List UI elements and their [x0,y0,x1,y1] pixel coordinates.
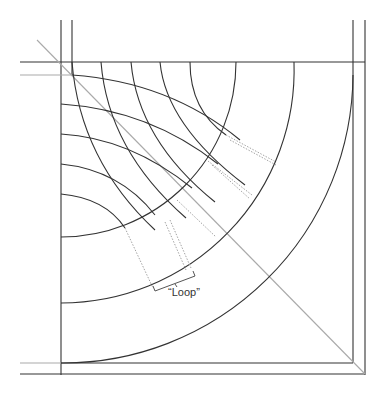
h-arc-5 [61,194,125,228]
dotted-3 [208,161,252,195]
loop-label: “Loop” [168,286,200,298]
dotted-8 [125,228,153,288]
dotted-7 [170,220,191,268]
arc-large [61,75,353,363]
h-arc-1 [72,75,240,140]
guide-lines [20,40,365,374]
dotted-projection-lines [125,135,276,288]
horizontal-arc-family [61,75,240,228]
h-arc-3 [61,134,192,188]
v-arc-3 [131,62,215,202]
v-arc-2 [101,62,186,218]
dotted-4 [212,165,250,199]
diagonal-guide [37,40,365,374]
dotted-5 [177,200,216,237]
v-arc-4 [160,62,245,185]
dotted-2 [230,140,276,165]
h-arc-4 [61,164,155,215]
quilt-curve-diagram [0,0,381,393]
arc-small [61,62,236,237]
v-arc-5 [190,62,226,135]
dotted-6 [165,222,186,270]
dotted-1 [226,135,276,162]
vertical-arc-family [72,62,245,230]
